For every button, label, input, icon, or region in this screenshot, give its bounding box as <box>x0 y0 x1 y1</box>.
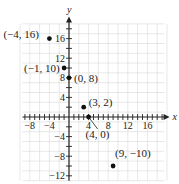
svg-text:−8: −8 <box>54 151 65 162</box>
svg-text:12: 12 <box>123 120 133 131</box>
tick-labels: −8−4481216161284−4−8−12xy <box>24 4 177 181</box>
svg-text:(0, 8): (0, 8) <box>74 72 98 85</box>
svg-text:−12: −12 <box>49 170 65 181</box>
svg-text:−4: −4 <box>54 131 65 142</box>
svg-text:16: 16 <box>142 120 152 131</box>
svg-text:(3, 2): (3, 2) <box>89 96 113 109</box>
svg-text:y: y <box>66 4 72 15</box>
scatter-chart: −8−4481216161284−4−8−12xy (−4, 16)(−1, 1… <box>0 0 179 184</box>
svg-text:−8: −8 <box>24 120 35 131</box>
svg-text:x: x <box>172 111 178 122</box>
svg-text:(9, −10): (9, −10) <box>115 147 151 160</box>
svg-text:(4, 0): (4, 0) <box>86 128 110 141</box>
svg-text:(−4, 16): (−4, 16) <box>3 28 39 41</box>
svg-text:4: 4 <box>60 92 65 103</box>
svg-text:8: 8 <box>60 72 65 83</box>
svg-text:−4: −4 <box>44 120 55 131</box>
svg-text:(−1, 10): (−1, 10) <box>24 62 60 75</box>
data-points: (−4, 16)(−1, 10)(0, 8)(3, 2)(4, 0)(9, −1… <box>3 28 151 169</box>
svg-text:16: 16 <box>55 33 65 44</box>
